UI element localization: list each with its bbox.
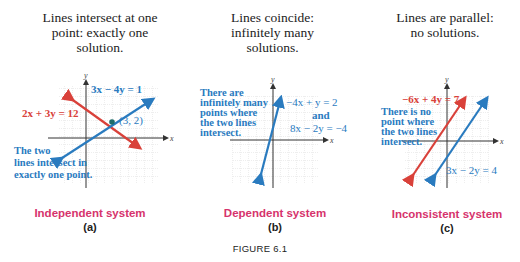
x-axis-label-a: x <box>169 134 174 143</box>
note-b-line-5: intersect. <box>200 127 241 138</box>
equation-and-b: and <box>312 109 330 121</box>
x-axis-label-c: x <box>499 137 504 146</box>
intersection-point-a <box>109 119 115 125</box>
equation-blue-c: 3x − 2y = 4 <box>446 164 497 176</box>
equation-red-a: 2x + 3y = 12 <box>22 107 79 119</box>
sub-label-c: (c) <box>382 222 512 234</box>
equation-1-b: −4x + y = 2 <box>286 96 338 108</box>
equation-2-b: 8x − 2y = −4 <box>290 122 348 134</box>
note-c-line-4: intersect. <box>381 136 422 147</box>
graph-a: x y 3x − 4y = 1 2x + 3y = 12 (3, 2) The … <box>14 71 174 188</box>
note-a-line-1: The two <box>14 145 50 156</box>
system-label-c: Inconsistent system <box>382 208 512 220</box>
x-axis-label-b: x <box>329 136 334 145</box>
point-label-a: (3, 2) <box>119 114 143 127</box>
system-label-b: Dependent system <box>215 207 335 219</box>
graph-c: x y −6x + 4y = 7 3x − 2y = 4 There is no… <box>381 75 504 188</box>
y-axis-label-b: y <box>270 75 275 84</box>
note-a-line-2: lines intersect in <box>14 157 87 168</box>
system-label-a: Independent system <box>30 207 150 219</box>
note-a-line-3: exactly one point. <box>14 169 93 180</box>
y-axis-label-c: y <box>444 75 449 84</box>
equation-red-c: −6x + 4y = 7 <box>402 93 460 105</box>
y-axis-label-a: y <box>83 71 88 80</box>
equation-blue-a: 3x − 4y = 1 <box>91 83 142 95</box>
figure-label: FIGURE 6.1 <box>210 243 310 254</box>
sub-label-a: (a) <box>30 221 150 233</box>
graph-b: x y −4x + y = 2 and 8x − 2y = −4 There a… <box>200 75 348 188</box>
sub-label-b: (b) <box>215 221 335 233</box>
